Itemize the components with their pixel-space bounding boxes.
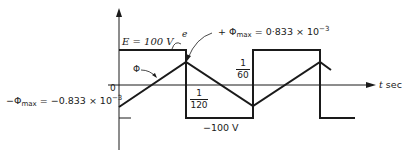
- period-num: 1: [236, 59, 250, 70]
- phi-max-neg-label: −Φmax = −0.833 × 10−3: [6, 95, 122, 108]
- period-fraction: 1 60: [236, 59, 250, 80]
- phi-max-pos-exp: −3: [319, 25, 329, 33]
- period-den: 60: [236, 70, 250, 80]
- e-level-label: E = 100 V: [122, 37, 174, 47]
- phimax-leader-line: [188, 33, 212, 58]
- phi-max-pos-sub: max: [236, 31, 251, 39]
- e-level-text: E = 100 V: [122, 36, 174, 47]
- e-curve-label: e: [182, 30, 187, 39]
- phi-max-pos-prefix: + Φ: [218, 26, 236, 37]
- neg-level-label: −100 V: [203, 123, 239, 133]
- phi-max-pos-value: = 0·833 × 10: [252, 26, 319, 37]
- half-period-num: 1: [190, 89, 208, 100]
- phi-max-neg-prefix: −Φ: [6, 95, 21, 106]
- phi-max-pos-label: + Φmax = 0·833 × 10−3: [218, 26, 329, 39]
- t-axis-arrow-icon: [366, 82, 376, 88]
- half-period-den: 120: [190, 100, 208, 110]
- t-axis-label: t sec: [379, 80, 402, 90]
- t-axis-unit: sec: [383, 79, 402, 90]
- phi-max-neg-value: = −0.833 × 10: [37, 95, 112, 106]
- origin-label: 0: [110, 84, 116, 93]
- y-axis-arrow-icon: [116, 8, 122, 17]
- phi-curve-label: Φ: [133, 65, 140, 74]
- half-period-fraction: 1 120: [190, 89, 208, 110]
- phi-max-neg-sub: max: [21, 100, 36, 108]
- phi-max-neg-exp: −3: [112, 94, 122, 102]
